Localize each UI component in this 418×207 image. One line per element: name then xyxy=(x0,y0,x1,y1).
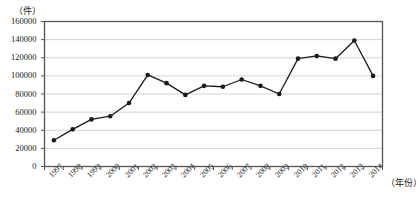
data-point-marker xyxy=(164,81,169,86)
data-point-marker xyxy=(183,93,188,98)
data-point-marker xyxy=(127,101,132,106)
data-point-marker xyxy=(296,56,301,61)
data-point-marker xyxy=(371,74,376,79)
data-point-marker xyxy=(52,138,57,143)
data-point-marker xyxy=(352,38,357,43)
data-line xyxy=(54,41,373,141)
data-point-marker xyxy=(314,54,319,59)
data-point-marker xyxy=(333,56,338,61)
data-point-marker xyxy=(145,73,150,78)
data-point-marker xyxy=(258,84,263,89)
plot-area xyxy=(0,0,418,207)
data-point-marker xyxy=(277,92,282,97)
line-chart: （件） （年份） 0200004000060000800001000001200… xyxy=(0,0,418,207)
data-point-marker xyxy=(70,127,75,132)
data-point-marker xyxy=(89,117,94,122)
data-point-marker xyxy=(202,84,207,89)
data-point-marker xyxy=(221,84,226,89)
data-point-marker xyxy=(108,114,113,119)
data-point-marker xyxy=(239,77,244,82)
